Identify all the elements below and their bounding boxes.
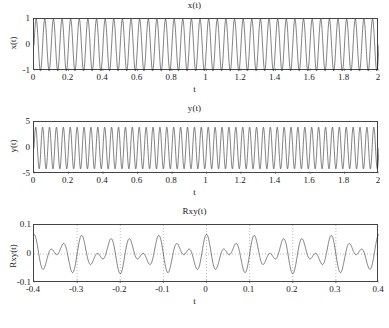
subplot-rxy-xtick--0.1: -0.1: [155, 284, 169, 294]
subplot-x-xtick-2: 0.4: [96, 72, 107, 82]
gridlines: [34, 225, 379, 283]
subplot-rxy: Rxy(t) Rxy(t) 0.1 0 -0.1 -0.4 -0.3 -0.2 …: [0, 206, 389, 328]
subplot-x-title: x(t): [0, 0, 389, 10]
subplot-y-title: y(t): [0, 103, 389, 113]
matlab-figure-window: x(t) x(t) 1 0 -1 0 0.2 0.4 0.6 0.8 1 1.2…: [0, 0, 389, 328]
subplot-x-xtick-5: 1: [203, 72, 208, 82]
subplot-y-xtick-3: 0.6: [131, 175, 142, 185]
subplot-x-xtick-4: 0.8: [165, 72, 176, 82]
subplot-rxy-xtick--0.3: -0.3: [69, 284, 83, 294]
subplot-rxy-xlabel: t: [0, 296, 389, 306]
subplot-y-xtick-8: 1.6: [303, 175, 314, 185]
subplot-x-xtick-6: 1.2: [234, 72, 245, 82]
subplot-rxy-xtick--0.2: -0.2: [112, 284, 126, 294]
subplot-y: y(t) y(t) 5 0 -5 0 0.2 0.4 0.6 0.8 1 1.2…: [0, 103, 389, 203]
subplot-y-ytick-0: 0: [12, 142, 30, 152]
subplot-rxy-xtick-0: 0: [203, 284, 208, 294]
subplot-x-ytick-0: 0: [12, 39, 30, 49]
subplot-x-xlabel: t: [0, 84, 389, 94]
subplot-x-xtick-8: 1.6: [303, 72, 314, 82]
subplot-rxy-xtick-0.1: 0.1: [243, 284, 254, 294]
subplot-rxy-ytick-0.1: 0.1: [7, 219, 31, 229]
subplot-y-xtick-1: 0.2: [62, 175, 73, 185]
subplot-rxy-axes: [33, 224, 378, 282]
subplot-rxy-title: Rxy(t): [0, 206, 389, 216]
subplot-rxy-canvas: [34, 225, 379, 283]
subplot-y-xlabel: t: [0, 187, 389, 197]
subplot-rxy-xtick-0.3: 0.3: [329, 284, 340, 294]
subplot-x-ytick-1: 1: [12, 13, 30, 23]
subplot-x-xtick-1: 0.2: [62, 72, 73, 82]
subplot-y-xtick-0: 0: [31, 175, 36, 185]
subplot-y-axes: [33, 121, 378, 173]
subplot-y-canvas: [34, 122, 379, 174]
subplot-x-xtick-7: 1.4: [269, 72, 280, 82]
subplot-rxy-xtick-0.4: 0.4: [372, 284, 383, 294]
subplot-x-xtick-0: 0: [31, 72, 36, 82]
subplot-y-xtick-5: 1: [203, 175, 208, 185]
subplot-y-xtick-6: 1.2: [234, 175, 245, 185]
subplot-y-xtick-4: 0.8: [165, 175, 176, 185]
subplot-x-xtick-9: 1.8: [338, 72, 349, 82]
subplot-y-ytick--5: -5: [10, 168, 30, 178]
subplot-y-xtick-2: 0.4: [96, 175, 107, 185]
subplot-x-ytick--1: -1: [10, 65, 30, 75]
subplot-x: x(t) x(t) 1 0 -1 0 0.2 0.4 0.6 0.8 1 1.2…: [0, 0, 389, 97]
subplot-y-xtick-9: 1.8: [338, 175, 349, 185]
subplot-y-xtick-10: 2: [376, 175, 381, 185]
subplot-x-axes: [33, 18, 378, 70]
subplot-y-xtick-7: 1.4: [269, 175, 280, 185]
subplot-rxy-xtick--0.4: -0.4: [26, 284, 40, 294]
subplot-x-canvas: [34, 19, 379, 71]
subplot-x-xtick-10: 2: [376, 72, 381, 82]
subplot-x-xtick-3: 0.6: [131, 72, 142, 82]
subplot-rxy-xtick-0.2: 0.2: [286, 284, 297, 294]
subplot-rxy-ytick-0: 0: [7, 248, 31, 258]
subplot-y-ytick-5: 5: [12, 116, 30, 126]
